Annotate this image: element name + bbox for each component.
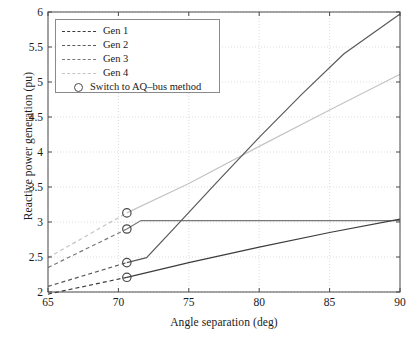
legend-item-1: Gen 1: [56, 24, 219, 38]
legend-label: Switch to AQ–bus method: [90, 81, 201, 93]
dashed-line-icon: [62, 73, 96, 74]
x-tick-label: 70: [113, 296, 125, 308]
legend-item-3: Gen 3: [56, 52, 219, 66]
series-solid-gen-4: [127, 74, 400, 213]
legend-label: Gen 3: [103, 53, 128, 65]
dashed-line-icon: [62, 59, 96, 60]
series-solid-gen-1: [127, 219, 400, 277]
x-tick-label: 65: [42, 296, 54, 308]
series-solid-gen-3: [127, 221, 400, 229]
circle-marker-icon: [74, 83, 83, 92]
legend-line-swatch: [62, 39, 96, 51]
dashed-line-icon: [62, 31, 96, 32]
series-dashed-gen-4: [48, 213, 127, 258]
x-tick-label: 90: [394, 296, 406, 308]
legend-label: Gen 1: [103, 25, 128, 37]
series-dashed-gen-2: [48, 263, 127, 287]
legend-item-2: Gen 2: [56, 38, 219, 52]
chart-figure: Reactive power generation (pu) 22.533.54…: [0, 0, 413, 341]
legend-item-5: Switch to AQ–bus method: [56, 80, 219, 94]
legend-label: Gen 2: [103, 39, 128, 51]
dashed-line-icon: [62, 45, 96, 46]
legend-label: Gen 4: [103, 67, 128, 79]
x-tick-label: 85: [324, 296, 336, 308]
legend-line-swatch: [62, 25, 96, 37]
x-tick-label: 80: [253, 296, 265, 308]
x-tick-label: 75: [183, 296, 195, 308]
legend-item-4: Gen 4: [56, 66, 219, 80]
legend: Gen 1Gen 2Gen 3Gen 4Switch to AQ–bus met…: [55, 19, 220, 93]
legend-line-swatch: [62, 67, 96, 79]
legend-line-swatch: [62, 53, 96, 65]
